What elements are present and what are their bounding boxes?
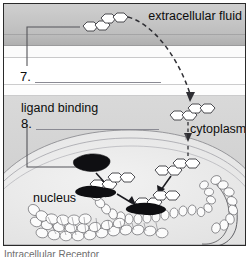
label-cytoplasm: cytoplasm (190, 123, 246, 136)
label-ligand-binding: ligand binding (21, 102, 98, 115)
blank-number-8: 8. (21, 117, 32, 130)
blank-rule-8[interactable] (36, 118, 159, 130)
figure-stage: extracellular fluid cytoplasm ligand bin… (0, 0, 249, 259)
blank-answer-row-8: 8. (21, 117, 159, 130)
blank-rule-7[interactable] (35, 71, 161, 83)
blank-answer-row-7: 7. (20, 70, 161, 83)
diagram-frame: extracellular fluid cytoplasm ligand bin… (3, 3, 246, 246)
label-extracellular-fluid: extracellular fluid (148, 10, 242, 23)
figure-caption-cropped: Intracellular Receptor (4, 249, 204, 257)
plasma-membrane-band (4, 35, 245, 96)
blank-number-7: 7. (20, 70, 31, 83)
label-nucleus: nucleus (33, 192, 76, 205)
intracellular-receptor-free (73, 154, 110, 172)
